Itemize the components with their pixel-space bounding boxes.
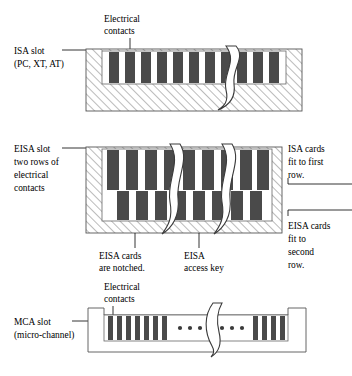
mca-electrical-contacts-label-line1: Electrical <box>104 282 140 292</box>
mca-electrical-contacts-label-line2: contacts <box>104 294 135 304</box>
eisa-eisa-cards-label-line2: fit to <box>288 234 306 244</box>
eisa-slot-label-line3: electrical <box>14 170 49 180</box>
isa-electrical-contacts-label-line2: contacts <box>104 26 135 36</box>
eisa-isa-cards-label-line3: row. <box>288 170 304 180</box>
eisa-slot-label-line4: contacts <box>14 183 45 193</box>
slot-comparison-diagram: Electrical contacts ISA slot (PC, XT, AT… <box>0 0 352 376</box>
isa-slot-label-line1: ISA slot <box>14 46 45 56</box>
eisa-slot-label-line2: two rows of <box>14 157 60 167</box>
mca-slot-section: Electrical contacts MCA slot (micro-chan… <box>14 282 306 357</box>
eisa-isa-cards-label-line1: ISA cards <box>288 144 325 154</box>
mca-contact-recess <box>104 315 288 341</box>
eisa-isa-cards-label-line2: fit to first <box>288 157 324 167</box>
mca-slot-label-line1: MCA slot <box>14 317 51 327</box>
eisa-notched-label-line2: are notched. <box>99 263 145 273</box>
eisa-eisa-cards-label-line3: second <box>288 247 314 257</box>
eisa-slot-section: EISA slot two rows of electrical contact… <box>14 144 352 273</box>
eisa-eisa-cards-label-line4: row. <box>288 260 304 270</box>
isa-slot-section: Electrical contacts ISA slot (PC, XT, AT… <box>14 14 302 111</box>
eisa-eisa-cards-label-line1: EISA cards <box>288 221 331 231</box>
mca-slot-label-line2: (micro-channel) <box>14 330 74 341</box>
isa-electrical-contacts-label-line1: Electrical <box>104 14 140 24</box>
isa-slot-label-line2: (PC, XT, AT) <box>14 59 64 70</box>
eisa-slot-label-line1: EISA slot <box>14 144 51 154</box>
eisa-access-key-label-line2: access key <box>184 263 224 273</box>
eisa-notched-label-line1: EISA cards <box>99 251 142 261</box>
isa-contact-bars <box>109 52 279 83</box>
eisa-upper-contact-bars <box>107 150 269 190</box>
eisa-access-key-label-line1: EISA <box>184 251 205 261</box>
